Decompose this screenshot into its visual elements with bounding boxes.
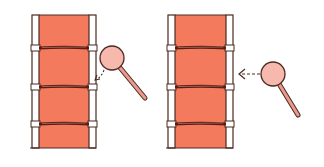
left-dashed-arrow-line — [97, 70, 104, 79]
right-film-body — [175, 15, 226, 148]
right-band-right-node — [225, 121, 234, 127]
illustration-stage — [0, 0, 324, 167]
left-band-left-node — [31, 45, 40, 51]
right-magnifier-lens-icon — [261, 62, 285, 86]
right-band-left-node — [167, 84, 176, 90]
left-magnifier-handle-icon — [120, 67, 145, 98]
right-magnifier-handle-icon — [279, 84, 298, 115]
left-left-rail — [32, 15, 39, 148]
right-band-right-node — [225, 84, 234, 90]
left-band-right-node — [88, 45, 97, 51]
left-right-rail — [89, 15, 96, 148]
right-band-right-node — [225, 45, 234, 51]
left-band-right-node — [88, 121, 97, 127]
left-band-left-node — [31, 84, 40, 90]
right-right-rail — [226, 15, 233, 148]
right-band-left-node — [167, 121, 176, 127]
right-left-rail — [168, 15, 175, 148]
left-film-body — [39, 15, 89, 148]
left-band-right-node — [88, 84, 97, 90]
film-strip-magnifier-illustration — [0, 0, 324, 167]
right-band-left-node — [167, 45, 176, 51]
left-band-left-node — [31, 121, 40, 127]
left-magnifier-lens-icon — [100, 46, 124, 70]
